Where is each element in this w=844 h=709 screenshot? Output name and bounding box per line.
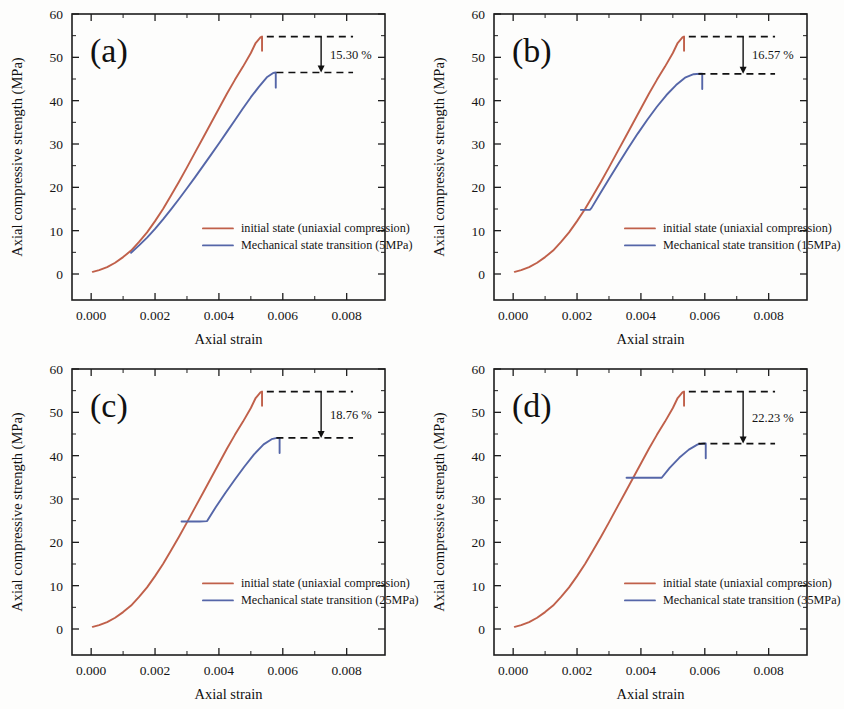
y-tick-label: 0 — [478, 267, 485, 282]
annotation-arrow-head — [740, 67, 747, 74]
x-tick-label: 0.002 — [140, 663, 170, 678]
x-tick-label: 0.008 — [331, 308, 362, 323]
x-tick-label: 0.000 — [498, 308, 529, 323]
y-tick-label: 30 — [472, 137, 486, 152]
y-tick-label: 0 — [56, 622, 63, 637]
x-tick-label: 0.006 — [268, 663, 299, 678]
legend-label-initial-state: initial state (uniaxial compression) — [663, 221, 832, 235]
y-axis-title: Axial compressive strength (MPa) — [431, 57, 448, 257]
legend-label-initial-state: initial state (uniaxial compression) — [241, 576, 410, 590]
curve-state-transition — [627, 444, 706, 478]
panel-b: 01020304050600.0000.0020.0040.0060.008Ax… — [422, 0, 844, 354]
figure-four-panel-stress-strain: 01020304050600.0000.0020.0040.0060.008Ax… — [0, 0, 844, 709]
x-axis-title: Axial strain — [616, 686, 685, 702]
y-axis-title: Axial compressive strength (MPa) — [9, 57, 26, 257]
y-tick-label: 20 — [50, 180, 64, 195]
x-tick-label: 0.004 — [626, 663, 657, 678]
panel-label: (a) — [90, 32, 128, 70]
x-tick-label: 0.000 — [76, 308, 107, 323]
y-axis-title: Axial compressive strength (MPa) — [431, 412, 448, 612]
x-tick-label: 0.002 — [140, 308, 170, 323]
panel-a-plot: 01020304050600.0000.0020.0040.0060.008Ax… — [0, 0, 422, 354]
legend-label-initial-state: initial state (uniaxial compression) — [241, 221, 410, 235]
y-tick-label: 50 — [472, 405, 486, 420]
x-axis-title: Axial strain — [616, 331, 685, 347]
y-tick-label: 10 — [472, 579, 486, 594]
y-tick-label: 10 — [50, 224, 64, 239]
y-tick-label: 30 — [472, 492, 486, 507]
x-tick-label: 0.000 — [76, 663, 107, 678]
legend-label-state-transition: Mechanical state transition (15MPa) — [663, 238, 841, 252]
y-tick-label: 30 — [50, 137, 64, 152]
annotation-percent-label: 22.23 % — [752, 411, 794, 425]
curve-initial-state — [93, 37, 262, 272]
y-tick-label: 40 — [50, 94, 64, 109]
x-tick-label: 0.006 — [690, 663, 721, 678]
y-tick-label: 60 — [50, 7, 64, 22]
curve-initial-state — [515, 392, 684, 627]
x-tick-label: 0.004 — [626, 308, 657, 323]
curve-state-transition — [182, 438, 280, 522]
y-axis-title: Axial compressive strength (MPa) — [9, 412, 26, 612]
x-tick-label: 0.004 — [204, 308, 235, 323]
y-tick-label: 10 — [472, 224, 486, 239]
y-tick-label: 20 — [50, 535, 64, 550]
y-tick-label: 40 — [472, 449, 486, 464]
annotation-arrow-head — [318, 431, 325, 438]
annotation-percent-label: 16.57 % — [752, 48, 794, 62]
y-tick-label: 0 — [478, 622, 485, 637]
x-axis-title: Axial strain — [194, 331, 263, 347]
y-tick-label: 50 — [50, 405, 64, 420]
y-tick-label: 40 — [472, 94, 486, 109]
y-tick-label: 0 — [56, 267, 63, 282]
panel-c: 01020304050600.0000.0020.0040.0060.008Ax… — [0, 355, 422, 709]
legend-label-state-transition: Mechanical state transition (5MPa) — [241, 238, 413, 252]
annotation-percent-label: 15.30 % — [330, 48, 372, 62]
panel-d-plot: 01020304050600.0000.0020.0040.0060.008Ax… — [422, 355, 844, 709]
x-tick-label: 0.002 — [562, 663, 592, 678]
x-tick-label: 0.006 — [690, 308, 721, 323]
y-tick-label: 40 — [50, 449, 64, 464]
panel-b-plot: 01020304050600.0000.0020.0040.0060.008Ax… — [422, 0, 844, 354]
x-axis-title: Axial strain — [194, 686, 263, 702]
annotation-percent-label: 18.76 % — [330, 408, 372, 422]
x-tick-label: 0.004 — [204, 663, 235, 678]
curve-initial-state — [93, 392, 262, 627]
y-tick-label: 60 — [50, 362, 64, 377]
legend-label-state-transition: Mechanical state transition (35MPa) — [663, 593, 841, 607]
panel-label: (d) — [512, 387, 552, 425]
y-tick-label: 50 — [50, 50, 64, 65]
annotation-arrow-head — [740, 437, 747, 444]
y-tick-label: 20 — [472, 180, 486, 195]
y-tick-label: 60 — [472, 362, 486, 377]
y-tick-label: 20 — [472, 535, 486, 550]
panel-label: (c) — [90, 387, 128, 425]
x-tick-label: 0.000 — [498, 663, 529, 678]
curve-state-transition — [581, 74, 702, 210]
y-tick-label: 30 — [50, 492, 64, 507]
curve-initial-state — [515, 37, 684, 272]
x-tick-label: 0.002 — [562, 308, 592, 323]
y-tick-label: 50 — [472, 50, 486, 65]
annotation-arrow-head — [318, 66, 325, 73]
x-tick-label: 0.008 — [753, 663, 784, 678]
x-tick-label: 0.006 — [268, 308, 299, 323]
y-tick-label: 10 — [50, 579, 64, 594]
panel-a: 01020304050600.0000.0020.0040.0060.008Ax… — [0, 0, 422, 354]
panel-label: (b) — [512, 32, 552, 70]
y-tick-label: 60 — [472, 7, 486, 22]
panel-c-plot: 01020304050600.0000.0020.0040.0060.008Ax… — [0, 355, 422, 709]
legend-label-initial-state: initial state (uniaxial compression) — [663, 576, 832, 590]
panel-d: 01020304050600.0000.0020.0040.0060.008Ax… — [422, 355, 844, 709]
legend-label-state-transition: Mechanical state transition (25MPa) — [241, 593, 419, 607]
x-tick-label: 0.008 — [331, 663, 362, 678]
x-tick-label: 0.008 — [753, 308, 784, 323]
